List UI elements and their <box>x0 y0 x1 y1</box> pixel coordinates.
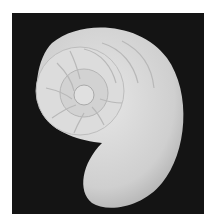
nautilus-shell-illustration <box>12 13 204 214</box>
nautilus-photo <box>12 13 204 214</box>
